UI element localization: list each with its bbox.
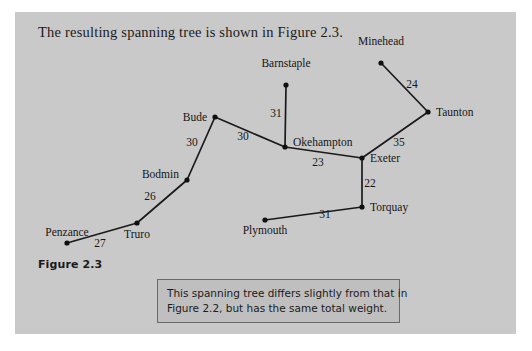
edge-weight-okehampton-exeter: 23: [312, 156, 324, 168]
graph-node-penzance: [64, 240, 69, 245]
graph-node-truro: [134, 220, 139, 225]
node-label-minehead: Minehead: [358, 35, 404, 47]
node-label-okehampton: Okehampton: [293, 136, 353, 149]
edge-weight-plymouth-torquay: 31: [319, 208, 331, 220]
edge-weight-barnstaple-okehampton: 31: [270, 107, 282, 119]
graph-edge-minehead-taunton: [381, 63, 428, 112]
edge-weight-minehead-taunton: 24: [406, 78, 418, 90]
graph-node-bodmin: [184, 177, 189, 182]
caption-line-2: Figure 2.2, but has the same total weigh…: [167, 301, 390, 316]
edge-weight-bude-bodmin: 30: [186, 136, 198, 148]
figure-label: Figure 2.3: [38, 258, 102, 271]
graph-node-barnstaple: [283, 82, 288, 87]
edge-weight-bude-okehampton: 30: [237, 130, 249, 142]
graph-node-exeter: [359, 155, 364, 160]
caption-box: This spanning tree differs slightly from…: [157, 279, 400, 323]
graph-node-minehead: [378, 60, 383, 65]
node-label-bude: Bude: [183, 111, 207, 123]
graph-node-taunton: [425, 109, 430, 114]
graph-edge-barnstaple-okehampton: [285, 85, 286, 147]
graph-node-bude: [212, 114, 217, 119]
graph-node-labels: MineheadTauntonBarnstapleBudeOkehamptonE…: [45, 35, 473, 240]
edge-weight-truro-penzance: 27: [94, 237, 106, 249]
graph-node-plymouth: [262, 217, 267, 222]
node-label-penzance: Penzance: [45, 226, 88, 238]
graph-node-okehampton: [282, 144, 287, 149]
graph-edge-bude-bodmin: [187, 117, 215, 180]
node-label-exeter: Exeter: [370, 152, 400, 164]
graph-edge-plymouth-torquay: [265, 207, 362, 220]
node-label-barnstaple: Barnstaple: [261, 57, 310, 70]
caption-line-1: This spanning tree differs slightly from…: [167, 286, 390, 301]
edge-weight-bodmin-truro: 26: [144, 190, 156, 202]
figure-page: The resulting spanning tree is shown in …: [0, 0, 532, 351]
node-label-taunton: Taunton: [436, 106, 474, 118]
node-label-plymouth: Plymouth: [243, 224, 288, 237]
node-label-torquay: Torquay: [370, 201, 408, 214]
edge-weight-exeter-torquay: 22: [364, 177, 376, 189]
node-label-truro: Truro: [124, 228, 150, 240]
graph-edge-bude-okehampton: [215, 117, 285, 147]
edge-weight-taunton-exeter: 35: [393, 136, 405, 148]
node-label-bodmin: Bodmin: [142, 168, 179, 180]
graph-node-torquay: [359, 204, 364, 209]
